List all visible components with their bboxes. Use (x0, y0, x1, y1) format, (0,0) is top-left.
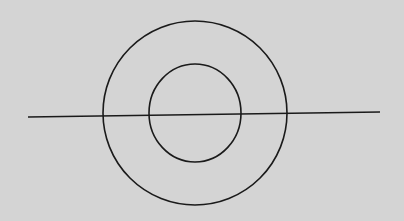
diagram-canvas (0, 0, 404, 221)
paper-background (0, 0, 404, 221)
